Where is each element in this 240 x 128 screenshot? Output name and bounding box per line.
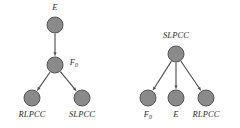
edge-SLPCC-to-F0: [155, 61, 172, 87]
node-label-text: RLPCC: [19, 109, 46, 119]
node-label-text: SLPCC: [69, 109, 95, 119]
figure-canvas: EF0RLPCCSLPCCSLPCCF0ERLPCC: [0, 0, 240, 128]
arrowhead-E-to-F0: [54, 52, 57, 56]
node-label-text: RLPCC: [193, 109, 220, 119]
node-label-slpcc: SLPCC: [69, 110, 95, 119]
node-label-e: E: [173, 110, 178, 119]
edge-SLPCC-to-RLPCC: [181, 61, 199, 87]
node-label-e: E: [52, 3, 57, 12]
node-f0[interactable]: [47, 57, 63, 73]
node-label-f0: F0: [70, 58, 78, 67]
node-label-slpcc: SLPCC: [163, 31, 189, 40]
node-e[interactable]: [47, 17, 63, 33]
node-label-rlpcc: RLPCC: [193, 110, 220, 119]
node-rlpcc[interactable]: [198, 90, 214, 106]
node-label-text: E: [173, 109, 178, 119]
node-label-f0: F0: [144, 110, 152, 119]
node-slpcc[interactable]: [74, 90, 90, 106]
node-label-subscript: 0: [75, 62, 78, 68]
edge-F0-to-SLPCC: [60, 72, 74, 89]
node-label-text: SLPCC: [163, 30, 189, 40]
node-slpcc[interactable]: [168, 46, 184, 62]
edge-F0-to-RLPCC: [39, 72, 50, 88]
node-f0[interactable]: [140, 90, 156, 106]
node-label-subscript: 0: [149, 114, 152, 120]
node-label-text: E: [52, 2, 57, 12]
node-label-rlpcc: RLPCC: [19, 110, 46, 119]
node-e[interactable]: [168, 90, 184, 106]
node-rlpcc[interactable]: [24, 90, 40, 106]
arrowhead-SLPCC-to-E: [175, 85, 178, 89]
